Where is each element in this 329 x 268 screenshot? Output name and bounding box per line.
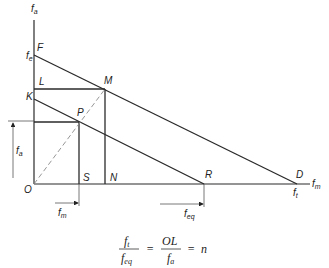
point-D: D [296, 169, 303, 180]
y-axis-label: fa [31, 3, 38, 15]
eq-mid-denominator: fa [167, 251, 174, 266]
fm-dimension-label: fm [58, 207, 67, 219]
eq-equals-2: = [187, 242, 195, 256]
fe-label: fe [26, 50, 33, 62]
equation: ft feq = OL fa = n [119, 234, 207, 266]
goodman-diagram: fa fm fe ft F L M K P O S N R D fa fm fe… [0, 0, 329, 268]
point-P: P [77, 107, 84, 118]
fa-dimension-label: fa [16, 145, 23, 157]
point-L: L [39, 76, 45, 87]
ft-label: ft [293, 187, 299, 199]
point-F: F [37, 42, 44, 53]
point-M: M [104, 75, 113, 86]
eq-mid-numerator: OL [162, 234, 178, 248]
feq-dimension-label: feq [184, 208, 195, 221]
point-K: K [26, 91, 34, 102]
point-N: N [110, 172, 118, 183]
eq-rhs: n [201, 242, 207, 256]
x-axis-label: fm [312, 178, 321, 190]
eq-lhs-denominator: feq [121, 251, 132, 266]
point-S: S [83, 172, 90, 183]
point-O: O [24, 184, 32, 195]
line-KR [34, 99, 204, 184]
line-OM-dashed [34, 89, 105, 184]
eq-equals-1: = [146, 242, 154, 256]
eq-lhs-numerator: ft [124, 234, 130, 249]
point-R: R [205, 169, 212, 180]
